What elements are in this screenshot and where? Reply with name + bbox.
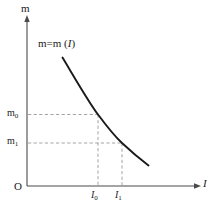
y-tick-m0-subscript: 0 — [15, 112, 19, 120]
y-tick-m1-subscript: 1 — [15, 140, 19, 148]
demand-curve — [63, 58, 149, 166]
y-tick-m1-base: m — [7, 135, 15, 146]
x-tick-i1-subscript: 1 — [118, 194, 122, 202]
x-tick-i1: I1 — [115, 190, 122, 202]
y-tick-m0: m0 — [7, 108, 18, 120]
figure-canvas: m I O m=m (I) m0 m1 I0 I1 — [0, 0, 219, 211]
plot-svg — [0, 0, 219, 211]
y-tick-m1: m1 — [7, 136, 18, 148]
x-axis-label: I — [203, 178, 207, 189]
x-tick-i0-subscript: 0 — [94, 194, 98, 202]
curve-annotation-suffix: ) — [71, 37, 75, 49]
curve-annotation: m=m (I) — [38, 38, 75, 49]
origin-label: O — [14, 181, 22, 192]
y-axis-label: m — [21, 3, 30, 14]
y-tick-m0-base: m — [7, 107, 15, 118]
x-tick-i0: I0 — [91, 190, 98, 202]
curve-annotation-prefix: m=m ( — [38, 37, 68, 49]
x-axis-arrowhead — [194, 183, 201, 188]
y-axis-arrowhead — [24, 15, 29, 22]
